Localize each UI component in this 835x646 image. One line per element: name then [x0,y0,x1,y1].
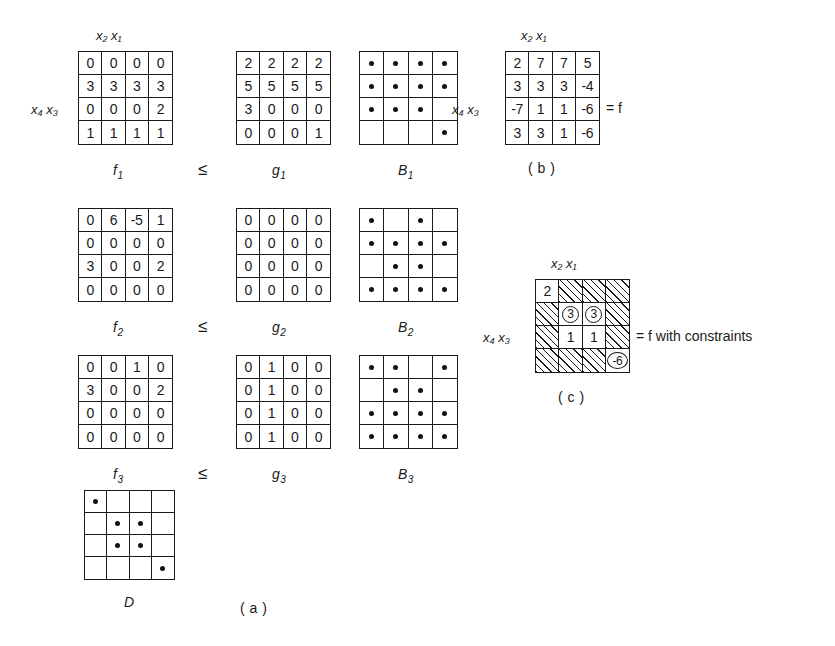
f-constraints-cell-r4c4: -6 [606,349,629,372]
D-cell-r1c3 [130,491,152,513]
matrix-g1: 2222555530000001 [236,51,331,145]
g3-cell-r1c1: 0 [237,356,260,379]
g1-cell-r1c2: 2 [260,52,283,75]
equals-f-label: = f [606,100,622,116]
f-constraints-cell-r2c3: 3 [583,303,606,326]
f2-cell-r4c4: 0 [149,278,172,301]
panel-tag-a: ( a ) [240,600,267,616]
f-constraints-cell-r2c2: 3 [559,303,582,326]
matrix-f1: 0000333300021111 [78,51,173,145]
label-f3-sub: 3 [117,474,123,485]
D-cell-r2c2 [107,513,129,535]
f3-cell-r1c4: 0 [149,356,172,379]
g1-cell-r3c4: 0 [307,98,330,121]
D-cell-r4c4 [152,557,174,579]
f-constraints-cell-r3c1 [536,326,559,349]
f3-cell-r4c1: 0 [79,425,102,448]
f2-cell-r1c4: 1 [149,209,172,232]
B2-cell-r2c4 [433,232,457,255]
f1-cell-r4c2: 1 [102,121,125,144]
operator-leq-row3: ≤ [198,464,207,484]
B3-cell-r1c3 [409,356,433,379]
label-B3-sub: 3 [408,474,414,485]
g2-cell-r2c4: 0 [307,232,330,255]
B3-cell-r3c4 [433,402,457,425]
matrix-f2: 06-51000030020000 [78,208,173,302]
g1-cell-r2c1: 5 [237,75,260,98]
f3-cell-r2c1: 3 [79,379,102,402]
f-cell-r2c3: 3 [553,75,576,98]
f-constraints-cell-r4c1 [536,349,559,372]
label-D: D [124,594,135,613]
f-constraints-cell-r4c2 [559,349,582,372]
g1-cell-r3c1: 3 [237,98,260,121]
label-B1-base: B [398,162,407,178]
matrix-g2: 0000000000000000 [236,208,331,302]
B2-cell-r3c1 [360,255,384,278]
D-cell-r1c4 [152,491,174,513]
g1-cell-r1c3: 2 [284,52,307,75]
f1-cell-r1c4: 0 [149,52,172,75]
f-constraints-circled-value: 3 [585,306,602,323]
f3-cell-r3c3: 0 [126,402,149,425]
matrix-g3: 0100010001000100 [236,355,331,449]
f1-cell-r2c3: 3 [126,75,149,98]
f-cell-r2c1: 3 [506,75,529,98]
f-cell-r4c1: 3 [506,121,529,144]
matrix-f3: 0010300200000000 [78,355,173,449]
f2-cell-r4c1: 0 [79,278,102,301]
label-g2-sub: 2 [280,327,286,338]
label-B2-base: B [398,319,407,335]
B2-cell-r2c3 [409,232,433,255]
g1-cell-r4c2: 0 [260,121,283,144]
B2-cell-r3c4 [433,255,457,278]
B1-cell-r4c2 [384,121,408,144]
f1-cell-r4c4: 1 [149,121,172,144]
D-cell-r4c2 [107,557,129,579]
label-g3-sub: 3 [280,474,286,485]
g3-cell-r3c4: 0 [307,402,330,425]
f-cell-r1c3: 7 [553,52,576,75]
label-f1-sub: 1 [117,170,123,181]
equals-f-constraints-label: = f with constraints [636,328,752,344]
g1-cell-r1c4: 2 [307,52,330,75]
f1-cell-r4c3: 1 [126,121,149,144]
equals-f-text: = f [606,100,622,116]
B1-cell-r2c4 [433,75,457,98]
f3-cell-r3c1: 0 [79,402,102,425]
f-cell-r3c2: 1 [529,98,552,121]
panel-tag-b: ( b ) [528,160,555,176]
label-f3: f3 [113,466,123,485]
g2-cell-r2c1: 0 [237,232,260,255]
g2-cell-r4c4: 0 [307,278,330,301]
B1-cell-r1c4 [433,52,457,75]
g3-cell-r2c3: 0 [284,379,307,402]
f3-cell-r3c2: 0 [102,402,125,425]
D-cell-r3c3 [130,535,152,557]
g3-cell-r3c1: 0 [237,402,260,425]
f-constraints-cell-r3c3: 1 [583,326,606,349]
f2-cell-r2c4: 0 [149,232,172,255]
f-constraints-cell-r4c3 [583,349,606,372]
B3-cell-r2c2 [384,379,408,402]
f2-cell-r3c1: 3 [79,255,102,278]
f-cell-r3c4: -6 [576,98,599,121]
f2-cell-r2c3: 0 [126,232,149,255]
matrix-f-with-constraints: 23311-6 [535,279,630,373]
B3-cell-r4c1 [360,425,384,448]
f3-cell-r2c3: 0 [126,379,149,402]
D-cell-r3c2 [107,535,129,557]
B3-cell-r3c2 [384,402,408,425]
label-g1: g1 [272,162,286,181]
g2-cell-r4c1: 0 [237,278,260,301]
f-cell-r4c2: 3 [529,121,552,144]
f1-cell-r3c1: 0 [79,98,102,121]
f-constraints-cell-r3c4 [606,326,629,349]
f-cell-r1c2: 7 [529,52,552,75]
f-cell-r2c4: -4 [576,75,599,98]
B2-cell-r1c2 [384,209,408,232]
B1-cell-r1c2 [384,52,408,75]
B1-cell-r2c2 [384,75,408,98]
f3-cell-r1c2: 0 [102,356,125,379]
B1-cell-r3c3 [409,98,433,121]
